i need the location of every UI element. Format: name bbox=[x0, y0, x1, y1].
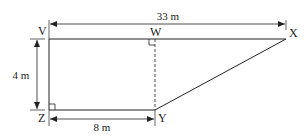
dimension-label-left: 4 m bbox=[13, 69, 30, 81]
trapezium-shape bbox=[49, 39, 286, 110]
dimension-label-bottom: 8 m bbox=[94, 121, 111, 133]
right-angle-marker-w bbox=[149, 39, 155, 45]
point-label-z: Z bbox=[38, 111, 45, 125]
point-label-v: V bbox=[38, 24, 47, 38]
right-angle-marker-z bbox=[49, 104, 55, 110]
dimension-label-top: 33 m bbox=[157, 10, 180, 22]
point-label-y: Y bbox=[158, 111, 167, 125]
trapezium-diagram: 33 m 4 m 8 m V W X Y Z bbox=[0, 0, 305, 138]
point-label-x: X bbox=[289, 26, 298, 40]
side-yx bbox=[155, 39, 286, 110]
point-label-w: W bbox=[150, 25, 162, 39]
